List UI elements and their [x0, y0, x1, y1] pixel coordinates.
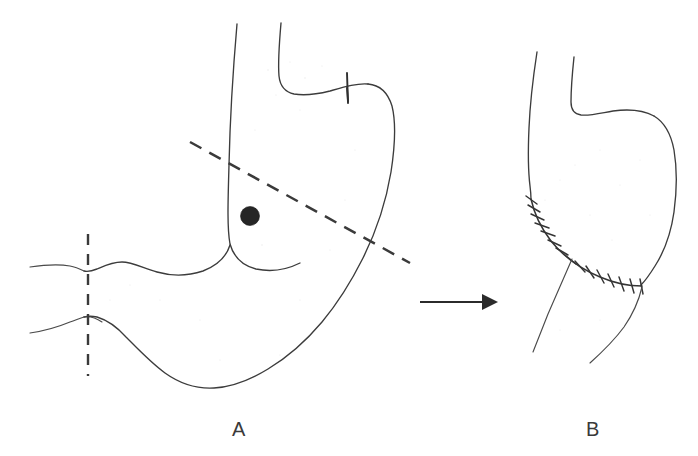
gastrectomy-diagram-svg	[0, 0, 698, 456]
panel-label-b: B	[586, 418, 600, 441]
panel-label-a: A	[232, 418, 246, 441]
panel-b-group	[526, 52, 676, 363]
panel-a-stipple	[109, 61, 355, 360]
duodenum-stub-upper-line	[30, 265, 84, 271]
suture-stitch	[556, 248, 568, 255]
remnant-right-border	[641, 116, 676, 285]
duodenum-stub-lower-line	[30, 317, 84, 333]
fundus-greater-curvature	[84, 84, 395, 388]
efferent-limb-left-wall	[533, 259, 572, 352]
esophagus-right-wall	[279, 23, 368, 95]
panel-b-stipple	[544, 149, 650, 330]
transition-arrow-group	[420, 294, 498, 310]
figure-root: A B	[0, 0, 698, 456]
suture-stitch	[541, 231, 555, 236]
antrum-superior-border	[84, 245, 230, 275]
transition-arrow-head-icon	[482, 294, 498, 310]
lesser-curvature-outline	[228, 24, 300, 270]
cardia-tick-tail-icon	[347, 88, 348, 101]
efferent-limb-right-wall	[590, 287, 642, 363]
panel-a-group	[30, 23, 410, 388]
anastomosis-suture-curve	[531, 199, 642, 286]
suture-stitch-group	[526, 196, 643, 294]
tumor-lesion-dot	[241, 207, 260, 226]
suture-stitch	[586, 266, 594, 278]
remnant-left-wall	[528, 52, 537, 199]
suture-stitch	[575, 261, 585, 272]
remnant-esophagus-right-wall	[571, 57, 654, 116]
oblique-resection-dashed-line	[190, 142, 410, 263]
